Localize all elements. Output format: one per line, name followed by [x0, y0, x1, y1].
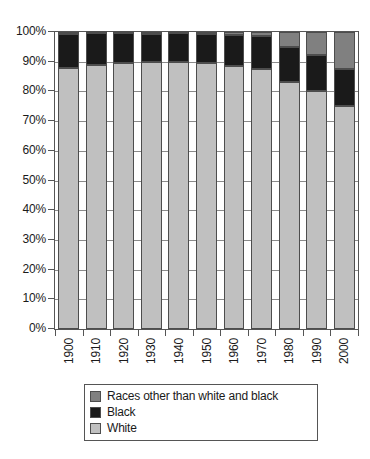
- bar-segment[interactable]: [113, 31, 134, 33]
- bar-segment[interactable]: [306, 32, 327, 55]
- y-tick-label: 30%: [0, 233, 46, 245]
- stacked-bar[interactable]: [224, 32, 245, 329]
- bar-segment[interactable]: [196, 63, 217, 329]
- bar-segment[interactable]: [86, 31, 107, 33]
- x-tick-mark: [358, 330, 359, 336]
- bar-slot: [303, 32, 331, 329]
- x-tick-label: 1910: [90, 338, 102, 364]
- bar-segment[interactable]: [86, 65, 107, 329]
- y-tick-mark: [48, 239, 54, 240]
- bar-segment[interactable]: [279, 47, 300, 82]
- stacked-bar[interactable]: [86, 32, 107, 329]
- stacked-bar[interactable]: [168, 32, 189, 329]
- y-tick-label: 40%: [0, 203, 46, 215]
- bar-slot: [110, 32, 138, 329]
- bar-segment[interactable]: [279, 32, 300, 47]
- stacked-bar[interactable]: [196, 32, 217, 329]
- legend-item[interactable]: White: [90, 420, 312, 436]
- bar-segment[interactable]: [251, 36, 272, 69]
- x-tick-label: 2000: [338, 338, 350, 364]
- bar-segment[interactable]: [86, 33, 107, 65]
- bar-segment[interactable]: [58, 68, 79, 329]
- bar-segment[interactable]: [196, 34, 217, 64]
- y-tick-label: 50%: [0, 174, 46, 186]
- y-tick-mark: [48, 61, 54, 62]
- bar-slot: [165, 32, 193, 329]
- stacked-bar[interactable]: [58, 32, 79, 329]
- y-tick-mark: [48, 120, 54, 121]
- x-tick-label: 1900: [63, 338, 75, 364]
- y-tick-label: 80%: [0, 84, 46, 96]
- legend-label: Black: [107, 406, 135, 418]
- bar-segment[interactable]: [224, 35, 245, 66]
- y-tick-label: 70%: [0, 114, 46, 126]
- legend-item[interactable]: Black: [90, 404, 312, 420]
- bar-segment[interactable]: [168, 33, 189, 62]
- bar-segment[interactable]: [141, 62, 162, 329]
- bar-slot: [220, 32, 248, 329]
- y-tick-label: 20%: [0, 263, 46, 275]
- x-tick-mark: [138, 330, 139, 336]
- x-tick-label: 1970: [256, 338, 268, 364]
- x-tick-mark: [193, 330, 194, 336]
- bar-segment[interactable]: [334, 106, 355, 329]
- y-tick-mark: [48, 180, 54, 181]
- x-tick-mark: [248, 330, 249, 336]
- y-tick-label: 60%: [0, 144, 46, 156]
- stacked-bar[interactable]: [334, 32, 355, 329]
- bar-segment[interactable]: [58, 34, 79, 68]
- stacked-bar[interactable]: [306, 32, 327, 329]
- chart-legend: Races other than white and blackBlackWhi…: [84, 384, 318, 441]
- bar-segment[interactable]: [58, 32, 79, 34]
- bar-slot: [193, 32, 221, 329]
- bar-segment[interactable]: [113, 63, 134, 329]
- x-tick-label: 1940: [173, 338, 185, 364]
- bar-slot: [330, 32, 358, 329]
- bar-segment[interactable]: [141, 34, 162, 63]
- x-tick-mark: [83, 330, 84, 336]
- y-tick-label: 100%: [0, 25, 46, 37]
- y-tick-label: 0%: [0, 322, 46, 334]
- legend-swatch-icon: [90, 407, 101, 418]
- bar-segment[interactable]: [168, 62, 189, 329]
- bar-segment[interactable]: [224, 32, 245, 35]
- bar-segment[interactable]: [141, 32, 162, 34]
- stacked-bar[interactable]: [113, 32, 134, 329]
- bar-segment[interactable]: [279, 82, 300, 329]
- y-tick-label: 90%: [0, 55, 46, 67]
- y-tick-mark: [48, 150, 54, 151]
- bar-slot: [275, 32, 303, 329]
- legend-label: Races other than white and black: [107, 390, 278, 402]
- legend-label: White: [107, 422, 137, 434]
- x-tick-label: 1980: [283, 338, 295, 364]
- x-tick-mark: [55, 330, 56, 336]
- bar-segment[interactable]: [196, 32, 217, 34]
- bar-segment[interactable]: [251, 69, 272, 329]
- y-tick-mark: [48, 209, 54, 210]
- x-tick-label: 1960: [228, 338, 240, 364]
- x-tick-mark: [165, 330, 166, 336]
- stacked-bar[interactable]: [279, 32, 300, 329]
- stacked-bar[interactable]: [141, 32, 162, 329]
- legend-item[interactable]: Races other than white and black: [90, 388, 312, 404]
- stacked-bar[interactable]: [251, 32, 272, 329]
- bar-slot: [248, 32, 276, 329]
- bar-segment[interactable]: [334, 32, 355, 69]
- bar-slot: [83, 32, 111, 329]
- bar-segment[interactable]: [168, 31, 189, 33]
- y-tick-mark: [48, 269, 54, 270]
- y-tick-label: 10%: [0, 292, 46, 304]
- bar-segment[interactable]: [224, 66, 245, 329]
- legend-swatch-icon: [90, 423, 101, 434]
- stacked-bar-chart: 100%90%80%70%60%50%40%30%20%10%0% 190019…: [0, 0, 370, 459]
- bar-segment[interactable]: [113, 33, 134, 62]
- x-tick-label: 1930: [145, 338, 157, 364]
- bar-slot: [138, 32, 166, 329]
- x-axis-ticks: [55, 330, 358, 337]
- bar-segment[interactable]: [306, 55, 327, 91]
- y-tick-mark: [48, 328, 54, 329]
- bar-slot: [55, 32, 83, 329]
- bar-segment[interactable]: [251, 32, 272, 36]
- bar-segment[interactable]: [334, 69, 355, 106]
- bar-segment[interactable]: [306, 91, 327, 329]
